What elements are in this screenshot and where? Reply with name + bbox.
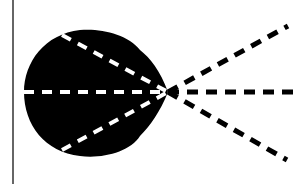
rays-outside-lobe <box>168 26 299 160</box>
ray-lower-outside <box>168 92 287 160</box>
ray-upper-outside <box>168 26 288 92</box>
radiation-pattern-diagram <box>0 0 299 184</box>
diagram-canvas <box>0 0 299 184</box>
